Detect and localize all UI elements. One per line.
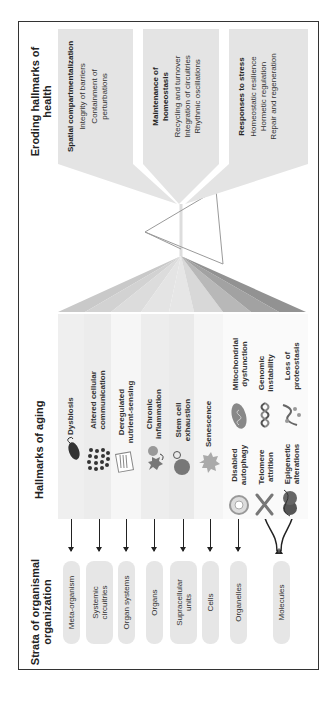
mitochondrion-icon — [229, 401, 249, 431]
health-group-heading: Maintenance of homeostasis — [151, 57, 171, 137]
stratum-organ-systems: Organ systems — [118, 561, 135, 644]
hallmark-label: Dysbiosis — [66, 397, 75, 435]
stratum-supracellular-units: Supracellular units — [170, 561, 197, 644]
autophagosome-icon — [227, 491, 251, 517]
diagram-frame: Strata of organismal organization Meta-o… — [18, 21, 319, 670]
stratum-molecules: Molecules — [273, 561, 290, 644]
hallmark-label: Epigenetic alterations — [283, 439, 301, 489]
nucleosome-icon — [279, 489, 301, 517]
stratum-systemic-circuitries: Systemic circuitries — [86, 561, 113, 644]
health-group-stress: Responses to stress Homeostatic resilien… — [229, 29, 308, 164]
health-item: Integrity of barriers — [78, 29, 88, 164]
stratum-organelles: Organelles — [230, 561, 247, 644]
bacterium-icon — [64, 435, 82, 461]
hallmark-label: Telomere attrition — [257, 445, 275, 489]
health-group-heading: Responses to stress — [237, 29, 247, 164]
hallmarks-health-title: Eroding hallmarks of health — [29, 39, 53, 164]
stratum-label: Systemic circuitries — [91, 578, 109, 628]
immune-cell-icon — [143, 442, 167, 476]
health-item: Containment of perturbations — [90, 62, 110, 132]
hallmark-label: Genomic instability — [257, 349, 275, 397]
hallmark-label: Altered cellular communication — [89, 357, 107, 443]
stratum-label: Organelles — [234, 583, 243, 622]
stratum-label: Organ systems — [122, 576, 131, 630]
health-group-heading: Spatial compartmentalization — [66, 29, 76, 164]
stratum-label: Molecules — [277, 585, 286, 621]
health-item: Recycling and turnover — [173, 29, 183, 164]
health-item: Repair and regeneration — [269, 29, 279, 164]
hallmark-label: Loss of proteostasis — [283, 335, 301, 397]
hallmark-label: Disabled autophagy — [230, 441, 248, 489]
stratum-label: Cells — [206, 594, 215, 612]
hallmarks-aging-title: Hallmarks of aging — [33, 379, 45, 499]
health-group-homeostasis: Maintenance of homeostasis Recycling and… — [143, 29, 219, 164]
strata-title: Strata of organismal organization — [29, 557, 53, 667]
health-group-spatial: Spatial compartmentalization Integrity o… — [58, 29, 133, 164]
health-item: Homeostatic resilience — [249, 29, 259, 164]
hallmark-label: Chronic inflammation — [145, 389, 163, 439]
health-item: Integration of circuitries — [183, 29, 193, 164]
health-item: Hormetic regulation — [259, 29, 269, 164]
hallmark-label: Senescence — [204, 401, 213, 447]
cell-cluster-icon — [85, 445, 111, 473]
stratum-label: Supracellular units — [175, 573, 193, 633]
stratum-cells: Cells — [202, 561, 219, 644]
stem-cell-icon — [169, 449, 193, 477]
stratum-label: Organs — [150, 589, 159, 615]
health-item: Rhythmic oscillations — [193, 29, 203, 164]
membrane-receptor-icon — [114, 449, 136, 473]
protein-icon — [279, 401, 303, 429]
diagram-rotated: Strata of organismal organization Meta-o… — [18, 19, 321, 670]
hallmark-label: Mitochondrial dysfunction — [231, 331, 249, 397]
hallmark-label: Deregulated nutrient-sensing — [117, 377, 135, 447]
stratum-label: Meta-organism — [67, 576, 76, 629]
dna-helix-icon — [257, 399, 273, 429]
hallmark-label: Stem cell exhaustion — [174, 395, 192, 445]
chromosome-icon — [254, 491, 276, 517]
stratum-meta-organism: Meta-organism — [63, 561, 80, 644]
senescent-cell-icon — [197, 451, 221, 475]
convergence-fan — [19, 154, 320, 314]
stratum-organs: Organs — [146, 561, 163, 644]
